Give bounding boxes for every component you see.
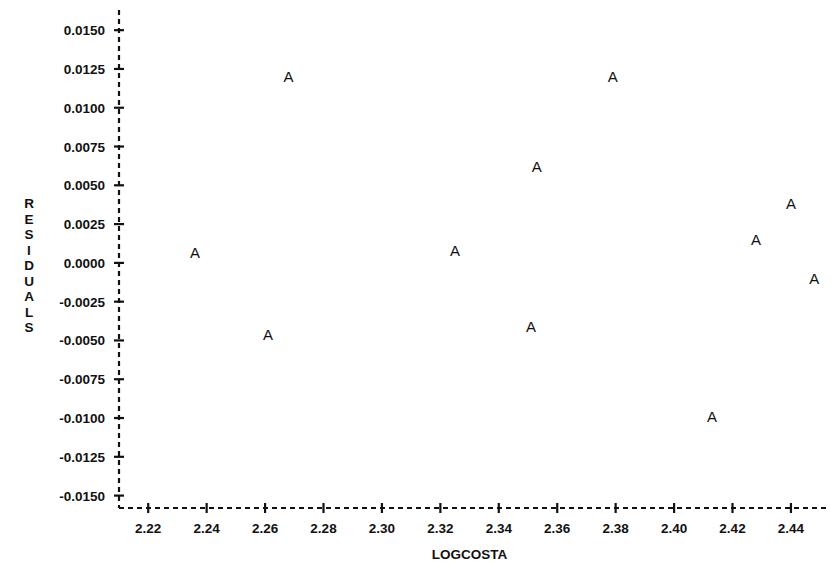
data-point-marker: A <box>263 326 273 343</box>
x-tick-label: 2.30 <box>369 521 395 536</box>
y-tick-label: -0.0150 <box>59 489 105 504</box>
x-tick-label: 2.38 <box>603 521 630 536</box>
x-tick-label: 2.42 <box>719 521 745 536</box>
x-tick-label: 2.26 <box>252 521 279 536</box>
y-tick-label: -0.0100 <box>59 411 105 426</box>
data-point-marker: A <box>707 408 717 425</box>
data-point-marker: A <box>190 244 200 261</box>
data-point-marker: A <box>532 158 542 175</box>
y-tick-label: 0.0050 <box>64 178 105 193</box>
data-point-marker: A <box>450 242 460 259</box>
y-tick-label: -0.0050 <box>59 333 105 348</box>
y-tick-label: 0.0125 <box>64 62 106 77</box>
data-points-group: AAAAAAAAAAA <box>190 68 819 425</box>
x-tick-label: 2.40 <box>661 521 687 536</box>
x-tick-label: 2.24 <box>194 521 221 536</box>
y-tick-label: 0.0100 <box>64 101 105 116</box>
y-tick-label: 0.0025 <box>64 217 106 232</box>
x-tick-label: 2.28 <box>310 521 337 536</box>
plot-canvas: 0.01500.01250.01000.00750.00500.00250.00… <box>0 0 834 580</box>
scatter-plot-figure: 0.01500.01250.01000.00750.00500.00250.00… <box>0 0 834 580</box>
y-tick-label: 0.0000 <box>64 256 105 271</box>
y-axis-title: R E S I D U A L S <box>20 196 38 336</box>
data-point-marker: A <box>526 318 536 335</box>
data-point-marker: A <box>283 68 293 85</box>
y-tick-label: -0.0125 <box>59 450 105 465</box>
axes-group <box>119 10 826 508</box>
y-tick-label: -0.0075 <box>59 372 105 387</box>
x-tick-label: 2.32 <box>427 521 453 536</box>
y-tick-label: 0.0075 <box>64 140 106 155</box>
y-tick-label: 0.0150 <box>64 23 105 38</box>
data-point-marker: A <box>786 195 796 212</box>
data-point-marker: A <box>751 231 761 248</box>
data-point-marker: A <box>809 270 819 287</box>
x-tick-label: 2.44 <box>778 521 805 536</box>
x-tick-label: 2.22 <box>135 521 161 536</box>
y-tick-label: -0.0025 <box>59 295 105 310</box>
tick-marks-group <box>114 30 791 513</box>
x-axis-title: LOGCOSTA <box>432 547 508 562</box>
x-axis-title-group: LOGCOSTA <box>432 547 508 562</box>
tick-labels-group: 0.01500.01250.01000.00750.00500.00250.00… <box>59 23 804 536</box>
x-tick-label: 2.36 <box>544 521 571 536</box>
data-point-marker: A <box>608 68 618 85</box>
x-tick-label: 2.34 <box>486 521 513 536</box>
